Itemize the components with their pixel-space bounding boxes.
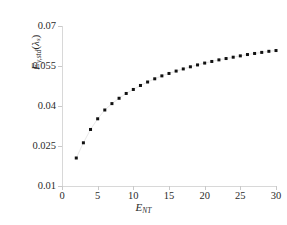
data-point-marker — [196, 63, 199, 66]
x-axis-tick-label: 10 — [128, 191, 139, 202]
y-axis-title-subscript: y,std — [34, 50, 43, 64]
data-point-marker — [217, 58, 220, 61]
y-axis-title-paren-close: ) — [29, 35, 41, 39]
data-point-marker — [260, 51, 263, 54]
x-axis-tick-mark — [276, 186, 277, 190]
y-axis-tick-mark — [58, 66, 62, 67]
data-point-marker — [232, 56, 235, 59]
data-point-marker — [160, 74, 163, 77]
y-axis-title-lambda: λ — [29, 41, 41, 46]
data-point-marker — [89, 128, 92, 131]
data-point-marker — [267, 50, 270, 53]
data-point-marker — [118, 97, 121, 100]
y-axis-tick-mark — [58, 106, 62, 107]
x-axis-tick-mark — [205, 186, 206, 190]
x-axis-tick-label: 5 — [95, 191, 100, 202]
data-point-marker — [75, 157, 78, 160]
data-point-marker — [182, 67, 185, 70]
y-axis-tick-label: 0.01 — [8, 181, 56, 192]
data-point-marker — [225, 57, 228, 60]
series-connector-line — [76, 51, 276, 158]
data-point-marker — [132, 88, 135, 91]
y-axis-title-main: E — [29, 63, 41, 70]
data-point-marker — [168, 72, 171, 75]
data-point-marker — [203, 62, 206, 65]
data-series-scatter — [62, 26, 276, 186]
x-axis-tick-mark — [240, 186, 241, 190]
data-point-marker — [146, 81, 149, 84]
data-point-marker — [210, 60, 213, 63]
x-axis-tick-mark — [62, 186, 63, 190]
plot-area — [62, 26, 276, 186]
chart-figure: 0.010.0250.040.0550.07 051015202530 ENT … — [0, 0, 287, 225]
y-axis-tick-mark — [58, 26, 62, 27]
data-point-marker — [96, 117, 99, 120]
x-axis-tick-label: 15 — [164, 191, 175, 202]
x-axis-tick-label: 20 — [199, 191, 210, 202]
data-point-marker — [82, 141, 85, 144]
data-point-marker — [253, 52, 256, 55]
x-axis-tick-mark — [98, 186, 99, 190]
x-axis-tick-label: 25 — [235, 191, 246, 202]
data-point-marker — [139, 84, 142, 87]
data-point-marker — [189, 65, 192, 68]
x-axis-tick-mark — [169, 186, 170, 190]
y-axis-title-paren-open: ( — [29, 46, 41, 50]
x-axis-title-subscript: NT — [142, 206, 151, 215]
data-point-marker — [110, 102, 113, 105]
data-point-marker — [275, 49, 278, 52]
x-axis-title: ENT — [0, 202, 287, 215]
x-axis-tick-label: 0 — [59, 191, 64, 202]
y-axis-title-lambda-subscript: s — [34, 38, 41, 41]
y-axis-title: Ey,std(λs) — [30, 0, 43, 112]
y-axis-tick-mark — [58, 146, 62, 147]
data-point-marker — [103, 109, 106, 112]
data-point-marker — [239, 54, 242, 57]
y-axis-tick-label: 0.025 — [8, 141, 56, 152]
x-axis-tick-mark — [133, 186, 134, 190]
data-point-marker — [125, 92, 128, 95]
data-point-marker — [246, 53, 249, 56]
x-axis-tick-label: 30 — [271, 191, 282, 202]
data-point-marker — [153, 77, 156, 80]
data-point-marker — [175, 70, 178, 73]
